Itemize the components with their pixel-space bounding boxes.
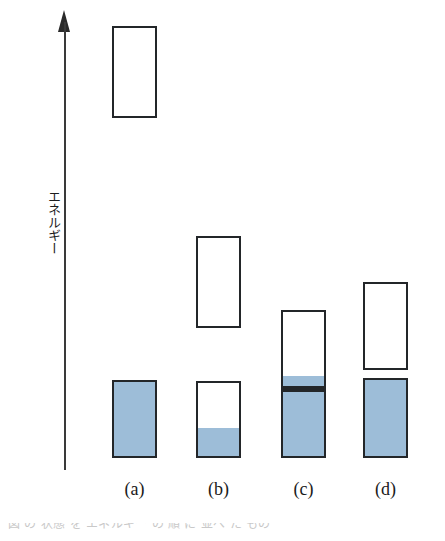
energy-box-a-upper-level xyxy=(112,26,157,118)
energy-box-c-lower-level xyxy=(281,390,326,458)
page-caption-text: 図 の 状態 を エネルギー の 順 に 並べ た もの xyxy=(8,523,271,531)
energy-box-d-upper-level xyxy=(363,282,408,370)
energy-box-b-lower-level xyxy=(196,381,241,458)
energy-level-figure: エネルギー (a)(b)(c)(d) 図 の 状態 を エネルギー の 順 に … xyxy=(0,0,445,541)
energy-axis-label: エネルギー xyxy=(39,190,61,255)
column-caption-a: (a) xyxy=(112,479,157,500)
column-caption-b: (b) xyxy=(196,479,241,500)
energy-box-d-lower-level xyxy=(363,378,408,458)
column-caption-c: (c) xyxy=(281,479,326,500)
energy-box-c-upper-level xyxy=(281,310,326,390)
energy-box-fill xyxy=(198,428,239,456)
energy-axis-line xyxy=(64,22,66,470)
energy-box-b-upper-level xyxy=(196,236,241,328)
page-caption-strip: 図 の 状態 を エネルギー の 順 に 並べ た もの xyxy=(0,523,445,541)
energy-box-a-lower-level xyxy=(112,380,157,458)
column-caption-d: (d) xyxy=(363,479,408,500)
energy-box-divider xyxy=(283,386,324,388)
